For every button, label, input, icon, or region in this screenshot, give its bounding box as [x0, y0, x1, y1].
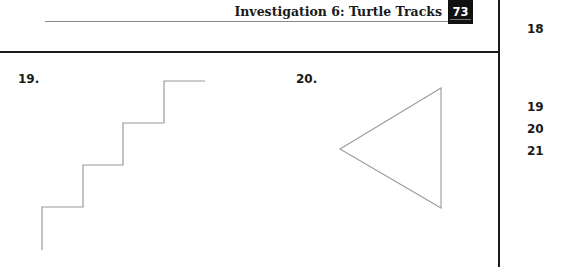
staircase-figure: [42, 81, 205, 250]
triangle-figure: [340, 88, 441, 208]
figures-canvas: [0, 0, 570, 267]
